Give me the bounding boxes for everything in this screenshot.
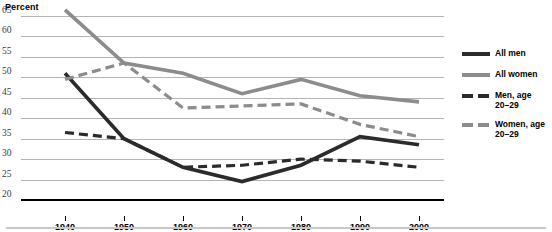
y-tick-label: 30 xyxy=(2,148,30,158)
legend: All menAll womenMen, age20–29Women, age2… xyxy=(462,48,550,148)
legend-swatch-icon xyxy=(462,52,490,56)
legend-label: Men, age xyxy=(495,90,550,100)
legend-label: All women xyxy=(495,69,550,79)
y-tick-label: 45 xyxy=(2,87,30,97)
series-line xyxy=(65,10,419,102)
series-line xyxy=(65,63,419,137)
x-tick-mark xyxy=(124,216,125,221)
legend-label: Women, age xyxy=(495,119,550,129)
bottom-divider xyxy=(6,227,546,229)
legend-label: All men xyxy=(495,48,550,58)
series-lines xyxy=(40,16,444,200)
y-tick-label: 60 xyxy=(2,25,30,35)
y-tick-label: 25 xyxy=(2,169,30,179)
x-tick-mark xyxy=(65,216,66,221)
x-tick-mark xyxy=(419,216,420,221)
legend-item[interactable]: Women, age20–29 xyxy=(462,119,550,139)
x-tick-mark xyxy=(360,216,361,221)
x-tick-mark xyxy=(301,216,302,221)
plot-area: 20253035404550556065 1940195019601970198… xyxy=(40,16,444,200)
y-tick-label: 65 xyxy=(2,5,30,15)
y-tick-label: 40 xyxy=(2,107,30,117)
legend-label-line2: 20–29 xyxy=(495,100,550,110)
y-tick-label: 35 xyxy=(2,128,30,138)
x-tick-mark xyxy=(242,216,243,221)
y-tick-label: 55 xyxy=(2,46,30,56)
legend-item[interactable]: All men xyxy=(462,48,550,60)
chart-page: Percent 20253035404550556065 19401950196… xyxy=(0,0,552,232)
legend-swatch-icon xyxy=(462,94,490,98)
legend-label-line2: 20–29 xyxy=(495,129,550,139)
y-tick-label: 20 xyxy=(2,189,30,199)
legend-item[interactable]: Men, age20–29 xyxy=(462,90,550,110)
legend-swatch-icon xyxy=(462,123,490,127)
legend-item[interactable]: All women xyxy=(462,69,550,81)
x-tick-mark xyxy=(183,216,184,221)
legend-swatch-icon xyxy=(462,73,490,77)
y-tick-label: 50 xyxy=(2,66,30,76)
